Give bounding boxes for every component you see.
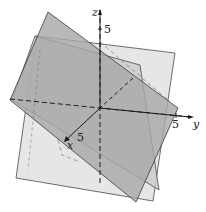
z-axis-arrow-icon [98, 9, 102, 15]
y-tick-label: 5 [172, 118, 179, 131]
z-axis-label: z [91, 6, 98, 19]
x-tick-label: 5 [77, 131, 84, 144]
plot-canvas: z 5 y 5 x 5 [0, 0, 206, 212]
three-planes-figure: z 5 y 5 x 5 [0, 0, 206, 212]
x-axis-label: x [67, 139, 74, 152]
y-axis-label: y [192, 118, 200, 131]
z-tick-label: 5 [104, 23, 111, 36]
